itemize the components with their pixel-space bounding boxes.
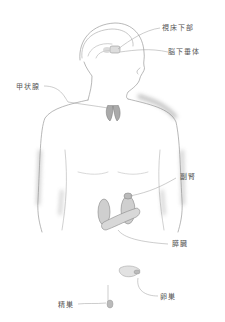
label-pituitary: 脳下垂体 bbox=[168, 46, 200, 56]
pituitary-gland bbox=[103, 46, 120, 53]
label-hypothalamus: 視床下部 bbox=[162, 22, 194, 32]
thyroid-gland bbox=[106, 105, 120, 121]
label-ovary: 卵巣 bbox=[160, 291, 176, 301]
testis-region bbox=[107, 285, 113, 308]
testis-leader bbox=[78, 303, 106, 304]
hypothalamus-leader bbox=[118, 28, 160, 49]
head-outline bbox=[80, 23, 145, 99]
label-adrenal: 副腎 bbox=[180, 171, 196, 181]
neck-back bbox=[84, 62, 92, 100]
label-testis: 精巣 bbox=[58, 299, 74, 309]
thyroid-leader bbox=[44, 86, 108, 108]
label-thyroid: 甲状腺 bbox=[16, 81, 40, 91]
ovary-leader bbox=[138, 278, 158, 296]
adrenal-leader bbox=[130, 178, 176, 196]
label-pancreas: 膵臓 bbox=[172, 238, 188, 248]
left-torso bbox=[38, 100, 88, 232]
ovary-region bbox=[119, 266, 140, 277]
pancreas-leader bbox=[118, 230, 168, 244]
